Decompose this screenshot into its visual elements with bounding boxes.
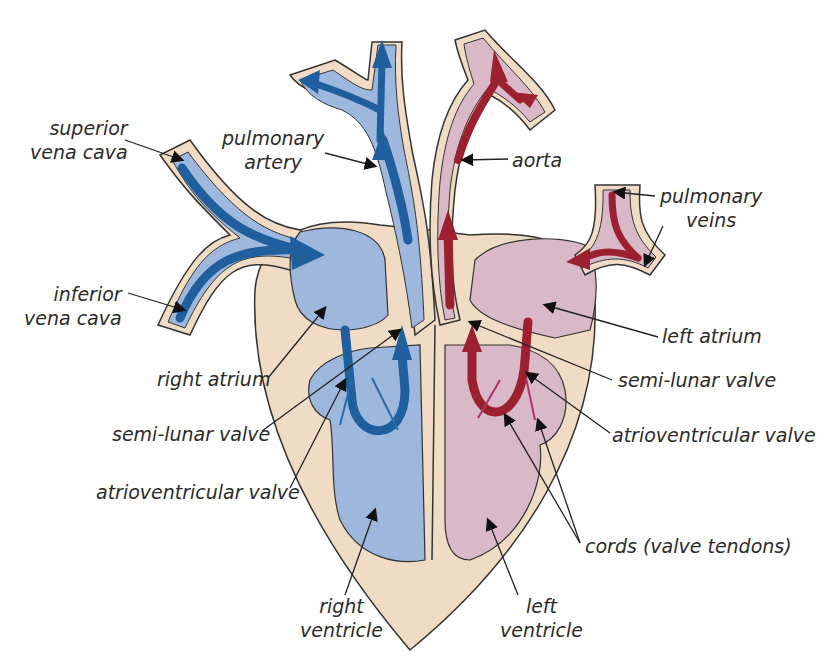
label-atrioventricular-valve-right: atrioventricular valve [96,480,300,504]
label-pulmonary-artery: pulmonaryartery [222,126,324,174]
right-atrium-chamber [290,228,388,330]
label-right-ventricle: rightventricle [300,594,383,642]
label-superior-vena-cava: superiorvena cava [30,116,128,164]
heart-diagram: superiorvena cava inferiorvena cava pulm… [0,0,839,670]
label-aorta: aorta [512,148,562,172]
label-inferior-vena-cava: inferiorvena cava [24,282,122,330]
label-semi-lunar-valve-left: semi-lunar valve [618,368,776,392]
label-atrioventricular-valve-left: atrioventricular valve [612,423,816,447]
label-semi-lunar-valve-right: semi-lunar valve [112,422,270,446]
label-left-atrium: left atrium [662,324,762,348]
aorta-pointer [463,159,508,160]
pulmonary-artery-pointer [325,153,375,166]
label-left-ventricle: leftventricle [500,594,583,642]
label-pulmonary-veins: pulmonaryveins [660,184,762,232]
label-right-atrium: right atrium [157,367,270,391]
label-cords: cords (valve tendons) [585,534,792,558]
